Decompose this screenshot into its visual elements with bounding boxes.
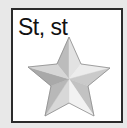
star-facets bbox=[28, 37, 110, 116]
flashcard: St, st bbox=[11, 8, 123, 123]
star-icon bbox=[13, 10, 121, 121]
